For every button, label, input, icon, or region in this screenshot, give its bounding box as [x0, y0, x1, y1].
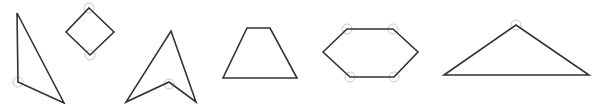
square-rotated: [66, 8, 114, 55]
hexagon: [323, 29, 418, 77]
obtuse-triangle: [444, 25, 589, 75]
shapes-diagram: [0, 0, 600, 104]
angle-markers-layer: [13, 3, 521, 89]
trapezoid: [223, 28, 297, 78]
shapes-layer: [17, 8, 589, 103]
right-triangle: [17, 13, 64, 103]
concave-arrowhead: [126, 31, 196, 102]
